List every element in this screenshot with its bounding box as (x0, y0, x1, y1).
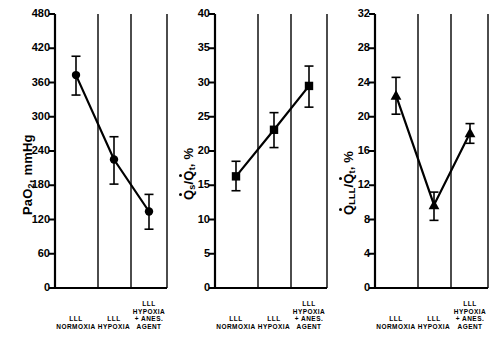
qsqt-panel: Qs/Qt, % 4035302520151050 LLLNORMOXIALLL… (165, 0, 330, 344)
x-axis-group-label: LLLHYPOXIA+ ANES.AGENT (440, 300, 491, 330)
y-tick-label: 20 (330, 110, 370, 122)
y-tick-label: 32 (330, 7, 370, 19)
data-series-line (76, 75, 149, 211)
y-tick-label: 0 (330, 281, 370, 293)
y-tick-label: 40 (170, 7, 210, 19)
data-point-marker (232, 172, 240, 180)
y-tick-label: 240 (10, 144, 50, 156)
pao2-panel: PaO2, mmHg 480420360300240180120600 LLLN… (0, 0, 170, 344)
y-tick-label: 35 (170, 41, 210, 53)
y-tick-label: 0 (170, 281, 210, 293)
data-point-marker (429, 200, 440, 210)
y-tick-label: 60 (10, 247, 50, 259)
data-point-marker (72, 71, 80, 79)
y-tick-label: 28 (330, 41, 370, 53)
y-tick-label: 420 (10, 41, 50, 53)
data-point-marker (270, 126, 278, 134)
figure-root: PaO2, mmHg 480420360300240180120600 LLLN… (0, 0, 491, 344)
y-tick-label: 480 (10, 7, 50, 19)
y-tick-label: 360 (10, 76, 50, 88)
y-tick-label: 5 (170, 247, 210, 259)
y-tick-label: 10 (170, 213, 210, 225)
x-axis-group-label-line: LLL (440, 300, 491, 308)
y-tick-label: 0 (10, 281, 50, 293)
y-tick-label: 15 (170, 178, 210, 190)
y-tick-label: 12 (330, 178, 370, 190)
y-tick-label: 300 (10, 110, 50, 122)
x-axis-group-label-line: + ANES. (440, 315, 491, 323)
y-tick-label: 8 (330, 213, 370, 225)
data-point-marker (465, 128, 476, 138)
data-point-marker (110, 155, 118, 163)
data-point-marker (391, 90, 402, 100)
y-tick-label: 20 (170, 144, 210, 156)
y-tick-label: 120 (10, 213, 50, 225)
data-series-line (396, 95, 470, 205)
qlllqt-panel: QLLL/Qt, % 322824201612840 LLLNORMOXIALL… (325, 0, 491, 344)
y-tick-label: 16 (330, 144, 370, 156)
y-tick-label: 4 (330, 247, 370, 259)
y-tick-label: 30 (170, 76, 210, 88)
y-tick-label: 25 (170, 110, 210, 122)
y-tick-label: 180 (10, 178, 50, 190)
y-tick-label: 24 (330, 76, 370, 88)
data-point-marker (305, 82, 313, 90)
x-axis-group-label-line: AGENT (440, 323, 491, 331)
data-point-marker (145, 207, 153, 215)
x-axis-group-label-line: HYPOXIA (440, 308, 491, 316)
